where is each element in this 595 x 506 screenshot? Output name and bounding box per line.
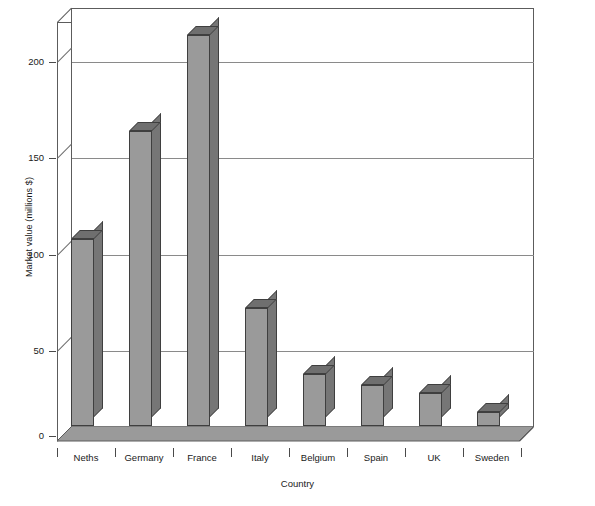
y-tick-label-50: 50 xyxy=(10,346,44,356)
x-label-sweden: Sweden xyxy=(455,452,529,463)
y-tickmark-100 xyxy=(49,255,56,256)
y-tick-label-200: 200 xyxy=(10,57,44,67)
y-tickmark-200 xyxy=(49,62,56,63)
y-tick-label-100: 100 xyxy=(10,250,44,260)
bar-chart: Market value (millions $) 200 150 100 50… xyxy=(0,0,595,506)
x-axis-title: Country xyxy=(0,478,595,489)
y-tickmark-150 xyxy=(49,158,56,159)
y-tickmark-0 xyxy=(49,436,56,437)
y-tickmark-50 xyxy=(49,351,56,352)
y-tick-label-150: 150 xyxy=(10,153,44,163)
y-axis-tick-labels: 200 150 100 50 0 xyxy=(10,0,44,506)
x-axis-tick-labels: Neths Germany France Italy Belgium Spain… xyxy=(57,452,534,468)
y-tick-label-0: 0 xyxy=(10,431,44,441)
x-axis-tickmarks xyxy=(57,8,534,449)
